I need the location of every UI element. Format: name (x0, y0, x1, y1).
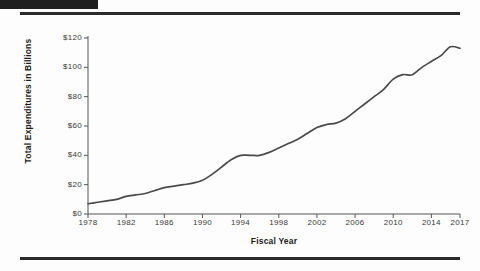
bottom-divider-rule (20, 257, 460, 260)
chart-plot-svg (0, 18, 480, 254)
top-divider-rule (20, 12, 460, 15)
header-black-bar (0, 0, 98, 9)
data-series-line (88, 46, 460, 203)
axis-lines (88, 36, 460, 214)
line-chart: Total Expenditures in Billions Fiscal Ye… (0, 18, 480, 254)
